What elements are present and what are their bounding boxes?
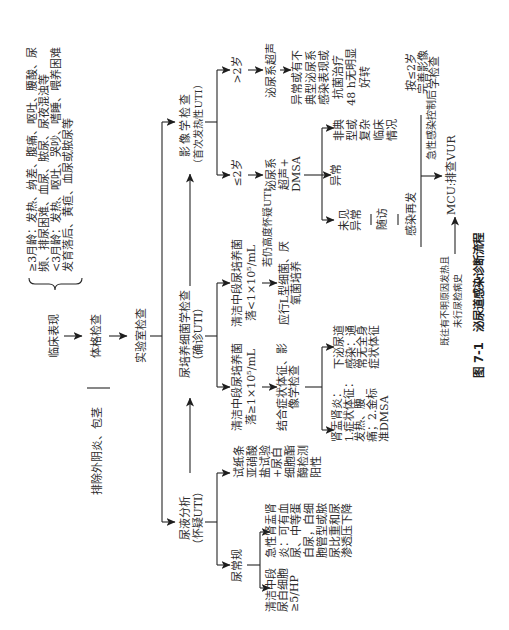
node-culture-positive: 清洁中段尿培养菌 落≥1×10⁵/mL xyxy=(231,332,258,442)
node-abnormal-or-atypical: 异常或有不 典型泌尿系 感染表现或 抗菌治疗 48 h无明显 好转 xyxy=(291,37,373,117)
text-line: 试纸条 xyxy=(234,445,247,478)
text-line: 典型泌尿系 xyxy=(305,37,319,117)
text-line: 异常 xyxy=(351,205,363,235)
text-line: 应行L型细菌、厌 xyxy=(279,228,291,338)
text-line: 酶检测 xyxy=(298,445,311,478)
text-line: 非典 xyxy=(333,115,346,145)
text-line: 抗菌治疗 xyxy=(332,37,346,117)
symptom-line: 发育落后、黄疸、血尿或脓尿等 xyxy=(63,47,75,272)
node-age-under-2: ≤2岁 xyxy=(232,153,245,193)
node-dipstick: 试纸条 亚硝酸 盐试验 +尿白 细胞酯 酶检测 阳性 xyxy=(234,445,324,478)
text-line: 氧菌培养 xyxy=(291,228,303,338)
node-title: 尿培养细菌学检查 xyxy=(179,274,192,394)
text-line: 好转 xyxy=(359,37,373,117)
text-line: DMSA xyxy=(291,149,304,199)
node-subtitle: （确诊UTI） xyxy=(192,274,205,394)
node-lab-tests: 实验室检查 xyxy=(136,308,149,363)
node-wbc-threshold: 清洁中段 尿白细胞 ≥5/HP xyxy=(266,568,301,612)
node-ultrasound-dmsa: 泌尿系 超声+ DMSA xyxy=(266,149,304,199)
text-line: 症状体征 xyxy=(369,317,381,377)
node-title: 影像学检查 xyxy=(179,59,192,189)
text-line: 型或 xyxy=(346,115,359,145)
node-lower-uti: 下泌尿道 感染：通 常无全身 症状体征 xyxy=(334,317,381,377)
figure-label: 图 7-1 xyxy=(473,342,486,378)
node-atypical-complex: 非典 型或 复杂 临床 情况 xyxy=(333,115,399,145)
text-line: 准DMSA xyxy=(379,377,391,443)
brace-icon xyxy=(29,278,82,290)
text-line: 未行尿检病史 xyxy=(452,251,465,351)
node-urinalysis: 尿液分析 （怀疑UTI） xyxy=(179,468,205,568)
text-line: 泌尿系 xyxy=(266,149,279,199)
node-urine-culture: 尿培养细菌学检查 （确诊UTI） xyxy=(179,274,205,394)
text-line: 情况 xyxy=(386,115,399,145)
text-line: 肾盂肾炎： xyxy=(332,377,344,443)
node-abnormal: 异常 xyxy=(331,160,344,190)
node-no-abnormality: 未见 异常 xyxy=(339,205,362,235)
node-acute-pyelonephritis-findings: 急性肾盂肾 炎：可有血 尿、中等蛋 白尿，白细 胞管型或脓 尿比重和尿 渗透压下… xyxy=(266,503,355,558)
node-urinary-ultrasound: 泌尿系超声 xyxy=(266,35,279,105)
text-line: 像学检查 xyxy=(289,332,301,442)
symptom-list: ≥3月龄：发热、纳差、腹痛、呕吐、腰酸、尿 频、排尿困难、血尿、脓尿、尿夜混浊等… xyxy=(27,47,75,272)
text-line: 异常或有不 xyxy=(291,37,305,117)
node-mcu-vur: MCU:排查VUR xyxy=(446,130,459,220)
node-pyelonephritis: 肾盂肾炎： 1.症状体征： 发热、腰 痛；2.金标 准DMSA xyxy=(332,377,391,443)
node-physical-exam: 体格检查 xyxy=(91,314,104,358)
figure-caption: 图 7-1泌尿道感染诊断流程 xyxy=(473,233,486,378)
text-line: ≥5/HP xyxy=(289,568,301,612)
text-line: 亚硝酸 xyxy=(247,445,260,478)
text-line: 临床 xyxy=(373,115,386,145)
label-still-suspect-uti: 若仍高度怀疑UTI xyxy=(262,188,275,267)
node-culture-negative: 清洁中段尿培养菌 落<1×10⁵/mL xyxy=(231,228,258,338)
node-imaging: 影像学检查 （首次发热性UTI） xyxy=(179,59,205,189)
text-line: 下泌尿道 xyxy=(334,317,346,377)
node-infection-recurrence: 感染再发 xyxy=(406,189,419,239)
text-line: 胞管型或脓 xyxy=(317,503,330,558)
note-exclude-vulvitis-phimosis: 排除外阴炎、包茎 xyxy=(92,407,105,495)
node-age-over-2: >2岁 xyxy=(232,50,245,90)
text-line: 感染表现或 xyxy=(318,37,332,117)
uti-diagnosis-flowchart: ≥3月龄：发热、纳差、腹痛、呕吐、腰酸、尿 频、排尿困难、血尿、脓尿、尿夜混浊等… xyxy=(0,0,509,630)
text-line: 清洁中段尿培养菌 xyxy=(231,332,245,442)
text-line: 48 h无明显 xyxy=(345,37,359,117)
node-combine-symptoms-imaging: 结合症状体征、影 像学检查 xyxy=(277,332,301,442)
node-routine-urine: 尿常规 xyxy=(232,549,245,582)
text-line: 未见 xyxy=(339,205,351,235)
node-subtitle: （怀疑UTI） xyxy=(192,468,205,568)
text-line: 落<1×10⁵/mL xyxy=(245,228,259,338)
text-line: 按≤2岁 xyxy=(406,42,418,102)
node-title: 尿液分析 xyxy=(179,468,192,568)
text-line: 清洁中段尿培养菌 xyxy=(231,228,245,338)
text-line: 渗透压下降 xyxy=(342,503,355,558)
text-line: 落≥1×10⁵/mL xyxy=(245,332,259,442)
node-subtitle: （首次发热性UTI） xyxy=(192,59,205,189)
text-line: 白尿，白细 xyxy=(304,503,317,558)
text-line: 阳性 xyxy=(311,445,324,478)
node-l-form-anaerobic-culture: 应行L型细菌、厌 氧菌培养 xyxy=(279,228,302,338)
label-after-acute-infection-control: 急性感染控制后 xyxy=(426,90,439,160)
figure-title: 泌尿道感染诊断流程 xyxy=(473,233,486,332)
node-clinical-presentation: 临床表现 xyxy=(49,314,62,358)
text-line: 既往有不明原因发热且 xyxy=(439,251,452,351)
text-line: 清洁中段 xyxy=(266,568,278,612)
node-unexplained-fever-history: 既往有不明原因发热且 未行尿检病史 xyxy=(439,251,465,351)
node-follow-up: 随访 xyxy=(377,204,390,234)
text-line: 急性肾盂肾 xyxy=(266,503,279,558)
text-line: 复杂 xyxy=(359,115,372,145)
